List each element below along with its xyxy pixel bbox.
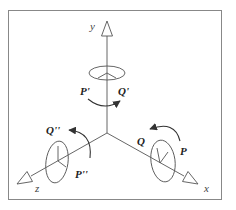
z-rotation-from-label: P'' — [75, 168, 88, 180]
x-axis-label: x — [203, 182, 209, 194]
x-rotation-arrow-icon — [150, 126, 180, 141]
coordinate-rotation-diagram: y x z P' Q' P Q P'' Q'' — [0, 0, 236, 210]
z-rotation-disk — [43, 140, 71, 185]
y-rotation-from-label: P' — [80, 85, 90, 97]
z-axis-label: z — [34, 182, 40, 194]
x-rotation-to-label: Q — [137, 135, 145, 147]
x-rotation-disk — [148, 139, 178, 184]
y-axis-arrowhead-icon — [102, 21, 113, 36]
x-rotation-from-label: P — [180, 145, 187, 157]
x-axis-arrowhead-icon — [183, 172, 199, 185]
z-axis-arrowhead-icon — [17, 172, 33, 185]
y-axis-label: y — [89, 20, 95, 32]
y-rotation-arrow-icon — [88, 99, 120, 106]
x-axis: x — [107, 133, 209, 194]
z-rotation-to-label: Q'' — [46, 124, 60, 136]
y-rotation-to-label: Q' — [118, 85, 129, 97]
